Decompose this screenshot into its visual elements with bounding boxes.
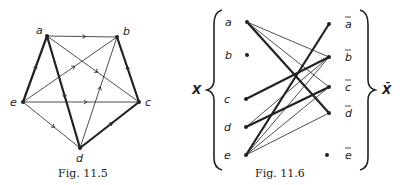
- vertex-label-a: a: [36, 24, 43, 37]
- left-vertex-a: [245, 20, 249, 24]
- edge-a-bbar: [247, 22, 329, 57]
- vertex-d: [78, 146, 82, 150]
- right-label-d: d: [345, 107, 353, 120]
- edge-e-abar: [246, 24, 329, 155]
- right-label-a: a: [345, 18, 352, 31]
- right-label-b: b: [345, 51, 352, 64]
- diagram-canvas: abcde X X̄ abcdeabcde Fig. 11.5 Fig. 11.…: [0, 0, 402, 185]
- right-vertex-d: [327, 111, 331, 115]
- figure-11-5-caption: Fig. 11.5: [58, 167, 108, 180]
- edge-a-c: [47, 36, 139, 102]
- right-vertex-b: [327, 55, 331, 59]
- vertex-label-d: d: [76, 152, 84, 165]
- set-xbar-label: X̄: [381, 82, 392, 97]
- edge-d-b: [80, 37, 117, 148]
- set-x-label: X: [191, 83, 202, 97]
- right-label-c: c: [345, 81, 351, 94]
- right-vertex-c: [327, 85, 331, 89]
- vertex-a: [45, 34, 49, 38]
- left-vertex-b: [245, 53, 249, 57]
- vertex-label-c: c: [145, 96, 151, 109]
- edge-a-b: [47, 36, 117, 37]
- edge-d-c: [80, 102, 139, 148]
- figure-11-5: abcde: [10, 24, 151, 165]
- edge-e-bbar: [246, 57, 329, 155]
- left-vertex-c: [244, 97, 248, 101]
- right-vertex-e: [325, 153, 329, 157]
- left-label-d: d: [224, 121, 232, 134]
- vertex-c: [137, 100, 141, 104]
- edge-e-d: [23, 102, 80, 148]
- right-vertex-a: [327, 22, 331, 26]
- edge-a-d: [47, 36, 80, 148]
- edge-e-a: [23, 36, 47, 102]
- vertex-label-e: e: [10, 96, 17, 109]
- left-brace: [207, 10, 222, 170]
- edge-e-b: [23, 37, 117, 102]
- left-vertex-e: [244, 153, 248, 157]
- right-brace: [360, 10, 375, 170]
- vertex-e: [21, 100, 25, 104]
- edge-c-b: [117, 37, 139, 102]
- left-vertex-d: [244, 125, 248, 129]
- left-label-e: e: [224, 149, 231, 162]
- figure-11-6: X X̄ abcdeabcde: [191, 10, 392, 170]
- figure-11-6-caption: Fig. 11.6: [255, 167, 305, 180]
- vertex-label-b: b: [123, 25, 130, 38]
- left-label-a: a: [225, 16, 232, 29]
- vertex-b: [115, 35, 119, 39]
- right-label-e: e: [345, 149, 352, 162]
- left-label-c: c: [224, 93, 230, 106]
- left-label-b: b: [225, 49, 232, 62]
